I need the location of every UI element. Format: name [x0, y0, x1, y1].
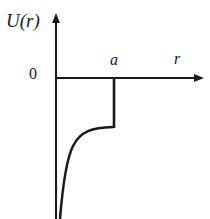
x-axis-arrowhead-icon	[194, 74, 204, 82]
potential-energy-figure: U(r) 0 a r	[0, 0, 210, 219]
origin-label: 0	[29, 66, 37, 82]
y-axis	[52, 13, 60, 219]
y-axis-label: U(r)	[6, 11, 40, 30]
potential-curve-inside-well	[60, 127, 113, 219]
y-axis-arrowhead-icon	[52, 13, 60, 23]
plot-canvas	[0, 0, 210, 219]
x-axis-label: r	[174, 51, 180, 67]
well-radius-label: a	[110, 52, 118, 68]
x-axis	[56, 74, 204, 82]
